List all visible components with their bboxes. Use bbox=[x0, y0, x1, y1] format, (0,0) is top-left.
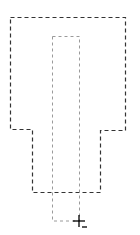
drawing-canvas[interactable] bbox=[0, 0, 140, 235]
crosshair-subtract-cursor-icon bbox=[73, 215, 87, 227]
outer-selection-outline bbox=[11, 18, 126, 193]
selection-overlay bbox=[0, 0, 140, 235]
inner-selection-marquee bbox=[53, 37, 80, 222]
